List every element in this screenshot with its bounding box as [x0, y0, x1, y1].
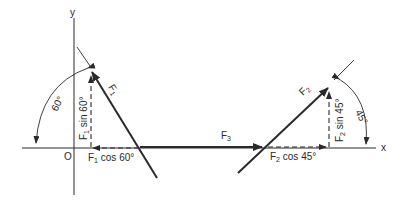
f1-cos-component-label: F1 cos 60° [88, 152, 134, 164]
force-diagram: y x O F1 F1 sin 60° F1 cos 60° 60° F3 F2 [0, 0, 404, 209]
axes: y x O [22, 7, 386, 195]
f2-direction-extension [334, 60, 354, 80]
f1-sin-component-label: F1 sin 60° [78, 97, 90, 140]
f1-direction-extension [77, 47, 90, 66]
f2-angle-label: 45° [353, 108, 370, 127]
f2-label: F2 [297, 82, 313, 98]
f2-sin-component-label: F2 sin 45° [334, 99, 346, 142]
force-f3: F3 [140, 130, 262, 147]
force-f2: F2 F2 cos 45° F2 sin 45° 45° [238, 60, 370, 173]
force-f1: F1 F1 sin 60° F1 cos 60° 60° [36, 47, 157, 178]
f2-cos-component-label: F2 cos 45° [270, 151, 316, 163]
y-axis-label: y [70, 7, 75, 18]
x-axis-label: x [381, 142, 386, 153]
f1-angle-label: 60° [49, 94, 66, 113]
f3-label: F3 [221, 130, 231, 142]
f1-label: F1 [105, 82, 121, 97]
origin-label: O [64, 151, 72, 162]
